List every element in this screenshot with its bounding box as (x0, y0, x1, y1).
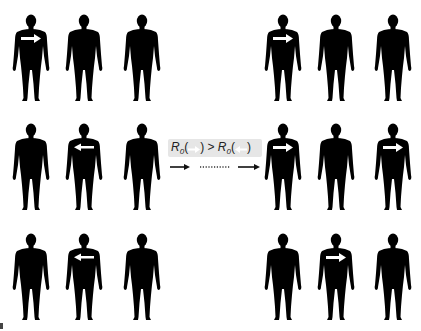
person-icon-left-r2c0 (9, 233, 53, 321)
r0-comparison-formula: R0() > R0() (168, 139, 262, 157)
person-icon-left-r1c0 (9, 123, 53, 211)
transition-arrows (168, 161, 268, 173)
corner-artifact (0, 323, 3, 329)
solid-right-arrow-icon (170, 164, 190, 170)
person-icon-right-r0c0 (261, 14, 305, 102)
person-icon-right-r1c2 (371, 123, 415, 211)
left-arrow-icon (235, 143, 247, 152)
person-icon-right-r0c2 (371, 14, 415, 102)
person-icon-right-r0c1 (314, 14, 358, 102)
person-icon-left-r1c2 (120, 123, 164, 211)
person-icon-left-r0c2 (120, 14, 164, 102)
person-icon-left-r2c1 (62, 233, 106, 321)
person-icon-left-r1c1 (62, 123, 106, 211)
person-icon-right-r2c0 (261, 233, 305, 321)
person-icon-right-r1c1 (314, 123, 358, 211)
person-icon-right-r2c2 (371, 233, 415, 321)
r0-symbol-right: R (218, 140, 227, 154)
right-arrow-icon (188, 143, 200, 152)
solid-right-arrow-icon (238, 164, 260, 170)
r0-symbol-left: R (171, 140, 180, 154)
person-icon-left-r0c1 (62, 14, 106, 102)
person-icon-left-r2c2 (120, 233, 164, 321)
person-icon-right-r2c1 (314, 233, 358, 321)
person-icon-left-r0c0 (9, 14, 53, 102)
comparison-operator: > (207, 140, 214, 154)
person-icon-right-r1c0 (261, 123, 305, 211)
